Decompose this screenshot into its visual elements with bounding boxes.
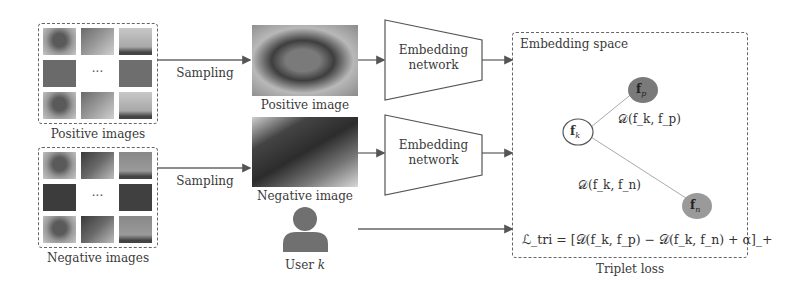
positive-thumb-flower-2	[81, 92, 114, 119]
negative-image-label: Negative image	[248, 189, 362, 203]
negative-image	[252, 117, 358, 187]
user-label: User k	[270, 258, 340, 272]
negative-thumb-dark-1	[43, 184, 76, 211]
negative-ellipsis: ···	[81, 189, 114, 203]
anchor-node-label: fk	[570, 124, 580, 140]
negative-images-label: Negative images	[38, 251, 158, 265]
positive-thumb-dark-2	[119, 60, 152, 87]
sampling-label-positive: Sampling	[170, 66, 240, 80]
user-body-shape	[283, 232, 328, 252]
positive-image	[252, 25, 358, 96]
positive-images-label: Positive images	[38, 127, 158, 141]
positive-ellipsis: ···	[81, 65, 114, 79]
positive-images-set: ···	[38, 23, 158, 124]
distance-negative-label: 𝒟(f_k, f_n)	[578, 178, 641, 192]
positive-thumb-cat	[119, 28, 152, 55]
negative-thumb-face-2	[43, 216, 76, 243]
sampling-label-negative: Sampling	[170, 174, 240, 188]
positive-thumb-cat-2	[119, 92, 152, 119]
positive-thumb-dark-1	[43, 60, 76, 87]
negative-thumb-flower	[81, 152, 114, 179]
negative-thumb-cat-2	[119, 216, 152, 243]
negative-node-label: fn	[690, 198, 700, 214]
embedding-space-title: Embedding space	[520, 37, 628, 51]
positive-thumb-face-2	[43, 92, 76, 119]
embedding-network-top: Embedding network	[385, 43, 482, 73]
positive-thumb-face	[43, 28, 76, 55]
embedding-space-box	[512, 32, 748, 258]
negative-thumb-face	[43, 152, 76, 179]
negative-thumb-dark-2	[119, 184, 152, 211]
positive-image-label: Positive image	[248, 98, 362, 112]
negative-images-set: ···	[38, 147, 158, 248]
positive-node-label: fp	[636, 82, 646, 98]
negative-thumb-cat	[119, 152, 152, 179]
triplet-loss-formula: ℒ_tri = [𝒟(f_k, f_p) − 𝒟(f_k, f_n) + α]_…	[522, 232, 773, 248]
triplet-loss-label: Triplet loss	[512, 262, 748, 276]
embedding-network-bottom: Embedding network	[385, 138, 482, 168]
distance-positive-label: 𝒟(f_k, f_p)	[618, 112, 681, 126]
user-head-shape	[293, 207, 317, 231]
positive-thumb-flower	[81, 28, 114, 55]
negative-thumb-flower-2	[81, 216, 114, 243]
